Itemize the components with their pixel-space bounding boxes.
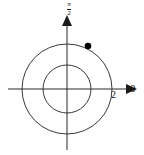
radial-tick-label-2: 2	[111, 90, 116, 100]
fraction-denominator: 2	[67, 10, 71, 17]
fraction-pi-over-two: π 2	[67, 1, 71, 18]
pi-over-two-axis-label: π 2	[62, 1, 76, 18]
fraction-numerator: π	[67, 1, 71, 8]
plotted-point-marker	[85, 43, 92, 50]
polar-graph-canvas	[0, 0, 144, 155]
polar-axis-label: 0	[130, 83, 136, 94]
polar-graph-figure: 0 2 π 2	[0, 0, 144, 155]
